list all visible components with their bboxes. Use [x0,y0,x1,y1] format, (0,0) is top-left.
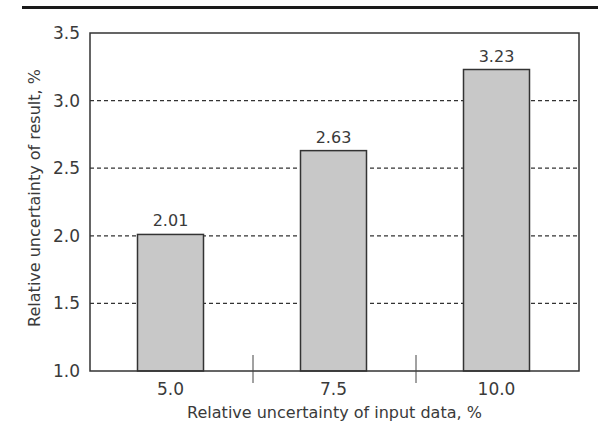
bar-value-label: 2.01 [153,211,189,230]
bar-value-label: 3.23 [479,47,515,66]
x-tick-label: 5.0 [157,379,184,399]
bar-chart: 2.012.633.23 1.01.52.02.53.03.5 5.07.510… [0,0,598,441]
bar-value-label: 2.63 [316,128,352,147]
y-tick-label: 3.0 [53,91,80,111]
y-tick-label: 1.5 [53,293,80,313]
x-tick-label: 10.0 [478,379,516,399]
bar [138,234,204,371]
bars: 2.012.633.23 [138,47,530,371]
y-tick-labels: 1.01.52.02.53.03.5 [53,23,80,381]
bar [464,70,530,371]
y-tick-label: 2.5 [53,158,80,178]
y-tick-label: 3.5 [53,23,80,43]
y-tick-label: 2.0 [53,226,80,246]
y-axis-title: Relative uncertainty of result, % [25,69,44,327]
x-axis-title: Relative uncertainty of input data, % [187,403,482,422]
y-tick-label: 1.0 [53,361,80,381]
bar [301,151,367,371]
x-tick-label: 7.5 [320,379,347,399]
